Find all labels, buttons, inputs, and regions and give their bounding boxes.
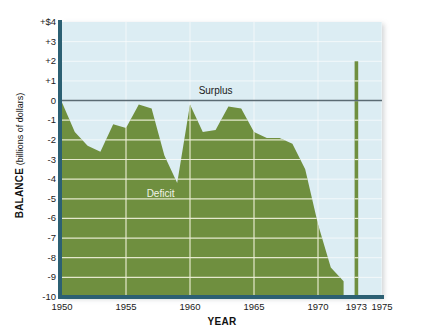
y-tick-label: -5 — [0, 194, 56, 204]
plot-inner — [62, 22, 382, 297]
y-tick-label: -3 — [0, 155, 56, 165]
x-tick-label: 1950 — [51, 301, 72, 312]
y-tick-label: +2 — [0, 56, 56, 66]
chart-figure: +$4+3+2+10-1-2-3-4-5-6-7-8-9-10 19501955… — [0, 0, 421, 334]
y-axis-title: BALANCE (billions of dollars) — [14, 41, 25, 271]
x-tick-label: 1975 — [371, 301, 392, 312]
plot-area — [62, 22, 382, 297]
y-axis-spine — [58, 20, 62, 299]
x-tick-label: 1955 — [115, 301, 136, 312]
x-tick-label: 1970 — [307, 301, 328, 312]
y-tick-label: +1 — [0, 76, 56, 86]
x-tick-label: 1965 — [243, 301, 264, 312]
x-tick-label: 1960 — [179, 301, 200, 312]
y-tick-label: -10 — [0, 292, 56, 302]
annotation-deficit: Deficit — [147, 188, 175, 199]
x-axis-title: YEAR — [208, 316, 237, 327]
y-tick-label: -1 — [0, 115, 56, 125]
y-tick-label: -9 — [0, 272, 56, 282]
y-tick-label: -7 — [0, 233, 56, 243]
y-axis-title-unit: (billions of dollars) — [15, 93, 25, 166]
chart-canvas — [62, 22, 382, 297]
y-axis-tick-labels: +$4+3+2+10-1-2-3-4-5-6-7-8-9-10 — [0, 0, 56, 334]
y-tick-label: -2 — [0, 135, 56, 145]
y-tick-label: +3 — [0, 37, 56, 47]
y-tick-label: -8 — [0, 253, 56, 263]
y-tick-label: -6 — [0, 213, 56, 223]
y-axis-title-main: BALANCE — [14, 168, 25, 218]
y-tick-label: 0 — [0, 96, 56, 106]
x-axis-spine — [58, 295, 384, 299]
x-tick-label: 1973 — [346, 301, 367, 312]
y-tick-label: +$4 — [0, 17, 56, 27]
y-tick-label: -4 — [0, 174, 56, 184]
annotation-surplus: Surplus — [199, 85, 233, 96]
